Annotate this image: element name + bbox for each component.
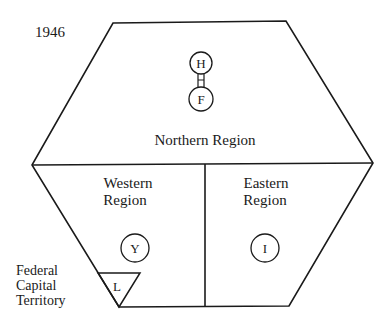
marker-h-label: H — [196, 56, 205, 71]
northern-region-label: Northern Region — [154, 132, 256, 148]
eastern-region-label-line1: Eastern — [244, 175, 289, 191]
western-region-label-line1: Western — [104, 175, 153, 191]
marker-l-label: L — [113, 279, 121, 294]
federal-label-line3: Territory — [16, 293, 66, 308]
western-region-label-line2: Region — [103, 192, 147, 208]
marker-i-label: I — [263, 241, 267, 256]
federal-label-line1: Federal — [16, 263, 58, 278]
marker-y-label: Y — [130, 241, 140, 256]
marker-f-label: F — [197, 92, 204, 107]
nigeria-regions-diagram: 1946 H F Northern Region Western Region … — [0, 0, 389, 327]
north-south-divider — [32, 163, 373, 165]
federal-label-line2: Capital — [16, 278, 57, 293]
year-label: 1946 — [35, 24, 66, 40]
eastern-region-label-line2: Region — [243, 192, 287, 208]
